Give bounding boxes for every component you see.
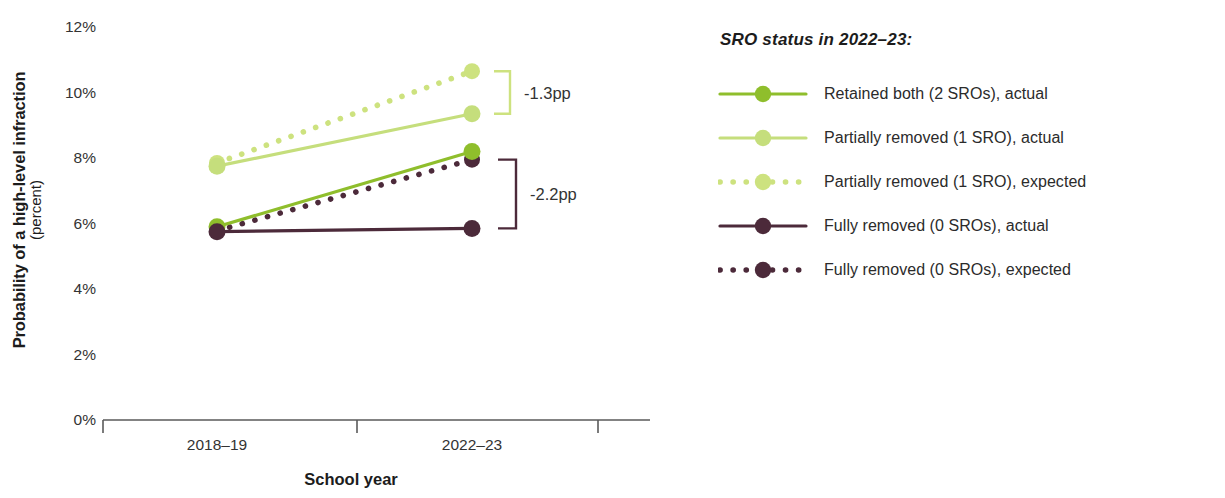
series-retained_actual — [209, 143, 481, 235]
data-point — [209, 223, 226, 240]
bracket-path — [494, 71, 510, 114]
legend-swatch — [718, 81, 808, 107]
series-partial_expected — [209, 63, 480, 171]
series-fully_expected — [209, 152, 480, 239]
data-point — [464, 143, 481, 160]
legend-marker — [755, 86, 771, 102]
legend-marker — [755, 262, 771, 278]
legend-swatch — [718, 169, 808, 195]
legend-item-label: Partially removed (1 SRO), expected — [824, 173, 1086, 191]
data-point — [464, 105, 481, 122]
annotation-label: -1.3pp — [524, 84, 571, 102]
series-line-retained_actual — [217, 151, 472, 226]
legend-item-label: Fully removed (0 SROs), actual — [824, 217, 1049, 235]
legend-item[interactable]: Fully removed (0 SROs), actual — [718, 204, 1188, 248]
series-partial_actual — [209, 105, 481, 174]
legend-item[interactable]: Retained both (2 SROs), actual — [718, 72, 1188, 116]
legend-swatch — [718, 125, 808, 151]
legend-item[interactable]: Partially removed (1 SRO), actual — [718, 116, 1188, 160]
legend-marker — [755, 130, 771, 146]
data-point — [464, 220, 481, 237]
series-fully_actual — [209, 220, 481, 240]
chart-figure: Probability of a high-level infraction (… — [0, 0, 1225, 498]
bracket-path — [498, 160, 516, 229]
legend-marker — [755, 174, 771, 190]
series-line-fully_expected — [217, 160, 472, 231]
data-point — [209, 158, 226, 175]
legend-item-label: Fully removed (0 SROs), expected — [824, 261, 1071, 279]
legend: SRO status in 2022–23: Retained both (2 … — [718, 30, 1188, 292]
annotation-label: -2.2pp — [530, 185, 577, 203]
legend-item-label: Retained both (2 SROs), actual — [824, 85, 1048, 103]
legend-title: SRO status in 2022–23: — [720, 30, 1188, 50]
legend-item-label: Partially removed (1 SRO), actual — [824, 129, 1064, 147]
series-line-partial_actual — [217, 114, 472, 166]
legend-item[interactable]: Partially removed (1 SRO), expected — [718, 160, 1188, 204]
annotation-bracket: -1.3pp — [494, 71, 571, 114]
legend-item[interactable]: Fully removed (0 SROs), expected — [718, 248, 1188, 292]
legend-marker — [755, 218, 771, 234]
legend-swatch — [718, 257, 808, 283]
series-line-fully_actual — [217, 228, 472, 231]
series-line-partial_expected — [217, 71, 472, 163]
legend-swatch — [718, 213, 808, 239]
data-point — [464, 63, 480, 79]
annotation-bracket: -2.2pp — [498, 160, 577, 229]
